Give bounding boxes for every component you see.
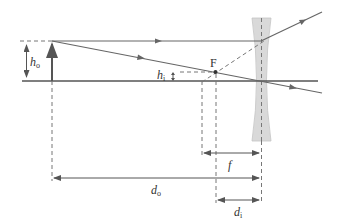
ray-direction-arrow-icon: [289, 84, 297, 90]
object-distance-label: do: [151, 183, 161, 198]
image-distance-label: di: [234, 205, 243, 220]
object-height-label: ho: [30, 55, 40, 70]
image-height-label: hi: [157, 68, 166, 83]
lens-diagram: ho F hi f do di: [0, 0, 337, 221]
focal-point-dot: [214, 70, 218, 74]
focal-length-label: f: [228, 158, 233, 172]
focal-point-label: F: [210, 56, 217, 70]
ray-direction-arrow-icon: [155, 39, 162, 44]
central-ray: [52, 41, 322, 93]
